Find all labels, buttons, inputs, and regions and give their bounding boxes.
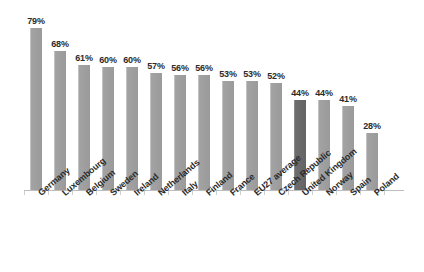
bar[interactable] bbox=[30, 28, 42, 190]
x-axis-tick bbox=[96, 191, 97, 195]
x-axis-tick bbox=[120, 191, 121, 195]
x-axis-tick bbox=[24, 191, 25, 195]
x-axis-tick bbox=[144, 191, 145, 195]
x-axis-tick bbox=[264, 191, 265, 195]
bar-group: 60% bbox=[120, 8, 144, 190]
x-axis-category-labels: GermanyLuxembourgBelgiumSwedenIrelandNet… bbox=[0, 190, 424, 272]
bar-value-label: 60% bbox=[99, 55, 116, 65]
bar-group: 57% bbox=[144, 8, 168, 190]
x-axis-tick bbox=[360, 191, 361, 195]
bar-value-label: 68% bbox=[51, 39, 68, 49]
bar-value-label: 61% bbox=[75, 53, 92, 63]
bar-value-label: 56% bbox=[195, 63, 212, 73]
x-axis-tick bbox=[288, 191, 289, 195]
bar-group: 79% bbox=[24, 8, 48, 190]
bar-value-label: 44% bbox=[291, 88, 308, 98]
bar-value-label: 53% bbox=[243, 69, 260, 79]
x-axis-tick bbox=[48, 191, 49, 195]
bar[interactable] bbox=[198, 75, 210, 190]
x-axis-tick bbox=[72, 191, 73, 195]
bar-group: 53% bbox=[216, 8, 240, 190]
x-axis-tick bbox=[168, 191, 169, 195]
bar-value-label: 52% bbox=[267, 71, 284, 81]
x-axis-tick bbox=[312, 191, 313, 195]
x-axis-tick bbox=[240, 191, 241, 195]
x-axis-tick bbox=[384, 191, 385, 195]
bar-value-label: 41% bbox=[339, 94, 356, 104]
x-axis-tick bbox=[336, 191, 337, 195]
bar-chart: 79%68%61%60%60%57%56%56%53%53%52%44%44%4… bbox=[0, 0, 424, 272]
bar-group: 28% bbox=[360, 8, 384, 190]
bar-value-label: 53% bbox=[219, 69, 236, 79]
bar-group: 68% bbox=[48, 8, 72, 190]
bar-group: 53% bbox=[240, 8, 264, 190]
bar-value-label: 79% bbox=[27, 16, 44, 26]
bar-value-label: 28% bbox=[363, 121, 380, 131]
bar-value-label: 44% bbox=[315, 88, 332, 98]
bar-value-label: 60% bbox=[123, 55, 140, 65]
bar-value-label: 57% bbox=[147, 61, 164, 71]
bar-value-label: 56% bbox=[171, 63, 188, 73]
x-axis-tick bbox=[192, 191, 193, 195]
x-axis-tick bbox=[216, 191, 217, 195]
